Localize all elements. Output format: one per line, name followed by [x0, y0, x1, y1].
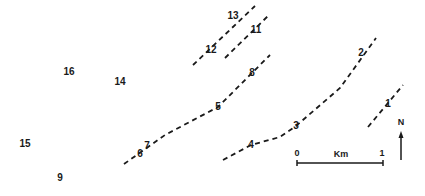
scale-unit-label: Km	[334, 150, 349, 159]
north-arrow-icon	[399, 131, 404, 160]
scale-start-label: 0	[294, 149, 299, 158]
point-label-11: 11	[251, 25, 262, 35]
scale-end-label: 1	[379, 149, 384, 158]
point-label-6: 6	[137, 149, 143, 159]
point-label-4: 4	[248, 140, 254, 150]
point-label-1: 1	[385, 99, 391, 109]
line-4-3-2	[223, 38, 376, 160]
north-arrow-label: N	[398, 118, 405, 127]
point-label-7: 7	[144, 141, 150, 151]
point-label-2: 2	[358, 48, 364, 58]
point-label-12: 12	[205, 45, 216, 55]
point-label-14: 14	[114, 77, 125, 87]
line-13-12	[193, 6, 255, 65]
map-canvas: 123456789111213141516 0 Km 1 N	[0, 0, 425, 196]
point-label-3: 3	[293, 121, 299, 131]
fault-lines-layer	[0, 0, 425, 196]
point-label-5: 5	[215, 102, 221, 112]
point-label-16: 16	[63, 67, 74, 77]
point-label-13: 13	[227, 11, 238, 21]
point-label-15: 15	[19, 139, 30, 149]
scale-bar-graphic	[297, 160, 383, 166]
point-label-8: 8	[249, 68, 255, 78]
point-label-9: 9	[57, 173, 63, 183]
